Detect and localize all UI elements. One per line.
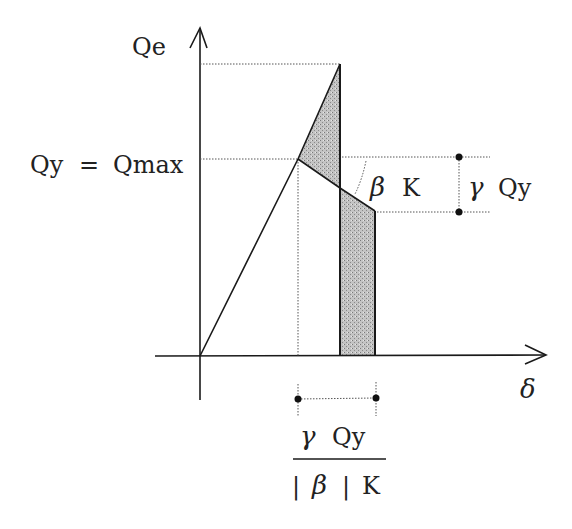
- shaded-triangle-region: [298, 64, 340, 188]
- shaded-strip-region: [340, 188, 375, 356]
- svg-text:Qy: Qy: [498, 174, 532, 202]
- width-fraction-label: γ Qy | β | K: [292, 421, 386, 501]
- svg-text:Qy: Qy: [30, 151, 64, 179]
- width-dimension-line: [298, 398, 376, 399]
- slope-label: β K: [369, 172, 421, 202]
- drop-label: γ Qy: [468, 172, 532, 202]
- y-axis-arrow-icon: [190, 28, 207, 48]
- diagram-canvas: Qe δ Qy = Qmax β K γ Qy γ Qy | β | K: [0, 0, 572, 529]
- y-axis: [190, 28, 207, 400]
- svg-text:β: β: [369, 172, 385, 202]
- slope-angle-arc: [355, 161, 366, 194]
- svg-text:|: |: [292, 472, 300, 501]
- svg-text:γ: γ: [300, 421, 316, 451]
- svg-text:|: |: [342, 472, 350, 501]
- x-axis-label: δ: [520, 374, 536, 404]
- svg-text:Qy: Qy: [332, 423, 366, 451]
- svg-text:Qmax: Qmax: [113, 151, 184, 179]
- svg-text:K: K: [402, 174, 421, 202]
- svg-text:β: β: [311, 470, 327, 500]
- svg-text:γ: γ: [468, 172, 484, 202]
- svg-text:K: K: [362, 472, 381, 500]
- y-axis-label: Qe: [132, 33, 166, 61]
- yield-label: Qy = Qmax: [30, 151, 184, 179]
- svg-text:=: =: [79, 151, 99, 179]
